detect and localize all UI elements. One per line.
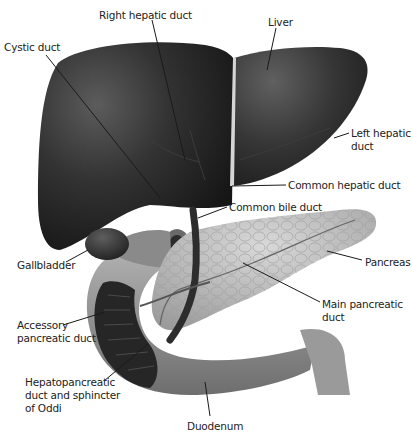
label-common-bile-duct: Common bile duct xyxy=(229,201,322,214)
label-duodenum: Duodenum xyxy=(187,420,243,433)
anatomy-diagram xyxy=(0,0,412,439)
label-right-hepatic-duct: Right hepatic duct xyxy=(99,9,192,22)
label-liver: Liver xyxy=(268,16,293,29)
gallbladder xyxy=(85,228,129,260)
label-gallbladder: Gallbladder xyxy=(17,259,75,272)
label-accessory-pancreatic-duct: Accessory pancreatic duct xyxy=(17,319,96,345)
label-left-hepatic-duct: Left hepatic duct xyxy=(351,127,411,153)
label-cystic-duct: Cystic duct xyxy=(4,41,60,54)
label-pancreas: Pancreas xyxy=(365,256,411,269)
label-hepatopancreatic-duct: Hepatopancreatic duct and sphincter of O… xyxy=(25,376,120,415)
label-main-pancreatic-duct: Main pancreatic duct xyxy=(322,298,403,324)
label-common-hepatic-duct: Common hepatic duct xyxy=(288,179,400,192)
